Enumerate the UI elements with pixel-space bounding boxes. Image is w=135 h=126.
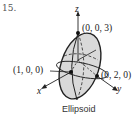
point-0-0-3 bbox=[76, 31, 80, 35]
y-axis-label: y bbox=[117, 84, 121, 94]
x-axis-label: x bbox=[37, 86, 41, 96]
problem-number: 15. bbox=[2, 3, 16, 13]
point-label-0-0-3: (0, 0, 3) bbox=[82, 23, 112, 33]
ellipsoid-figure: 15. z (0, 0, 3) (1, 0, 0) (0, 2, 0) x y … bbox=[0, 0, 135, 126]
figure-caption: Ellipsoid bbox=[62, 104, 96, 114]
x-arrow-icon bbox=[41, 84, 47, 89]
point-1-0-0 bbox=[69, 70, 73, 74]
point-label-1-0-0: (1, 0, 0) bbox=[13, 65, 43, 75]
point-label-0-2-0: (0, 2, 0) bbox=[101, 70, 131, 80]
z-axis-label: z bbox=[75, 4, 79, 14]
point-0-2-0 bbox=[95, 74, 99, 78]
